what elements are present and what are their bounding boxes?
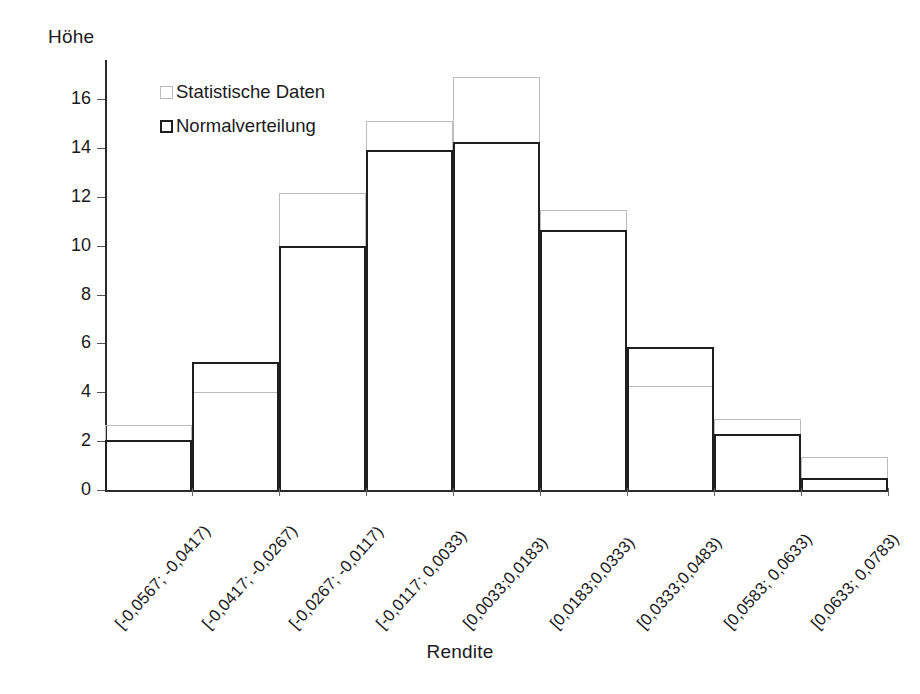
chart-legend: Statistische DatenNormalverteilung — [160, 78, 325, 146]
x-tick-mark — [279, 488, 280, 496]
y-axis-title: Höhe — [48, 26, 94, 48]
y-tick-mark — [97, 441, 105, 442]
y-tick-label: 10 — [71, 235, 91, 255]
x-tick-mark — [192, 488, 193, 496]
y-tick-mark — [97, 246, 105, 247]
x-axis-category-label: [0,0333;0,0483) — [633, 533, 725, 633]
y-tick-mark — [97, 148, 105, 149]
x-axis-category-label: [0,0633; 0,0783) — [807, 529, 903, 632]
bar-group — [714, 60, 801, 490]
bar-normalverteilung — [453, 142, 540, 490]
y-tick-mark — [97, 392, 105, 393]
x-tick-mark — [366, 488, 367, 496]
y-tick-mark — [97, 197, 105, 198]
y-tick-label: 2 — [81, 430, 91, 450]
y-tick-label: 14 — [71, 137, 91, 157]
legend-item-label: Normalverteilung — [176, 116, 316, 136]
y-tick-mark — [97, 490, 105, 491]
legend-item-label: Statistische Daten — [176, 82, 325, 102]
bar-group — [453, 60, 540, 490]
legend-item: Normalverteilung — [160, 112, 325, 140]
y-tick-label: 6 — [81, 332, 91, 352]
y-tick-mark — [97, 99, 105, 100]
x-axis-category-label: [0,0183;0,0333) — [546, 533, 638, 633]
x-axis-category-label: [-0,0567; -0,0417) — [111, 521, 214, 633]
y-tick-mark — [97, 343, 105, 344]
legend-swatch-icon — [160, 86, 173, 99]
y-tick-label: 16 — [71, 88, 91, 108]
bar-group — [540, 60, 627, 490]
bar-normalverteilung — [801, 478, 888, 490]
x-tick-mark — [714, 488, 715, 496]
bar-normalverteilung — [366, 150, 453, 490]
bar-normalverteilung — [192, 362, 279, 490]
x-axis-category-label: [-0,0117; 0,0033) — [372, 526, 471, 632]
x-axis-category-label: [0,0583; 0,0633) — [720, 529, 816, 632]
bar-normalverteilung — [714, 434, 801, 490]
legend-swatch-icon — [160, 120, 173, 133]
x-axis-category-label: [-0,0267; -0,0117) — [285, 522, 387, 633]
bar-group — [801, 60, 888, 490]
y-tick-label: 12 — [71, 186, 91, 206]
x-tick-mark — [627, 488, 628, 496]
legend-item: Statistische Daten — [160, 78, 325, 106]
y-tick-mark — [97, 295, 105, 296]
x-axis-labels: [-0,0567; -0,0417)[-0,0417; -0,0267)[-0,… — [105, 492, 888, 632]
x-axis-category-label: [-0,0417; -0,0267) — [198, 521, 301, 633]
x-tick-mark — [453, 488, 454, 496]
y-tick-label: 0 — [81, 479, 91, 499]
x-tick-mark — [888, 488, 889, 496]
x-tick-mark — [540, 488, 541, 496]
x-axis-category-label: [0,0033;0,0183) — [459, 533, 551, 633]
bar-group — [366, 60, 453, 490]
x-axis-title: Rendite — [0, 641, 920, 663]
y-tick-label: 8 — [81, 284, 91, 304]
bar-normalverteilung — [279, 246, 366, 490]
bar-group — [627, 60, 714, 490]
bar-normalverteilung — [627, 347, 714, 490]
x-tick-mark — [801, 488, 802, 496]
bar-normalverteilung — [540, 230, 627, 490]
bar-normalverteilung — [105, 440, 192, 490]
histogram-chart: Höhe 0246810121416 [-0,0567; -0,0417)[-0… — [0, 0, 920, 694]
y-tick-label: 4 — [81, 381, 91, 401]
